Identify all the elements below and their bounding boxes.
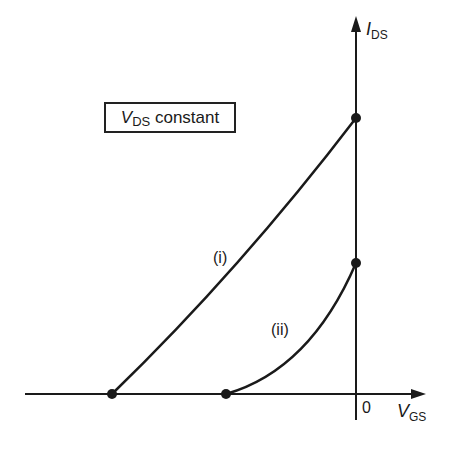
transfer-characteristic-plot <box>0 0 456 454</box>
curve-i-label: (i) <box>213 250 227 266</box>
vgs-subscript: GS <box>409 410 426 424</box>
x-axis-arrow-icon <box>411 389 426 399</box>
vds-constant-text: constant <box>150 108 219 128</box>
y-axis-label: IDS <box>366 20 388 38</box>
curve-ii <box>226 263 356 394</box>
curve-ii-label: (ii) <box>271 322 289 338</box>
origin-label: 0 <box>362 400 371 416</box>
curve-i-start-dot <box>107 389 117 399</box>
y-axis-arrow-icon <box>351 16 361 32</box>
curve-i <box>112 118 356 394</box>
vds-symbol: V <box>121 108 132 128</box>
curve-ii-start-dot <box>221 389 231 399</box>
ids-subscript: DS <box>371 28 388 42</box>
curve-i-end-dot <box>351 113 361 123</box>
vgs-symbol: V <box>397 401 409 421</box>
x-axis-label: VGS <box>397 402 426 420</box>
vds-subscript: DS <box>132 114 150 129</box>
curve-ii-end-dot <box>351 258 361 268</box>
vds-constant-label-box: VDS constant <box>104 102 236 133</box>
